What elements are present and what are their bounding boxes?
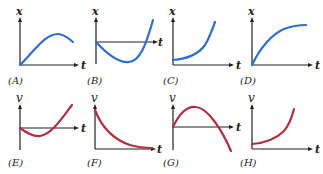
panel-label: (F) xyxy=(87,157,102,168)
curve xyxy=(20,34,73,65)
curve xyxy=(173,107,231,151)
curve xyxy=(95,110,152,148)
panel-g: v t (G) xyxy=(163,91,241,168)
curve xyxy=(252,109,294,144)
x-axis-label: t xyxy=(158,36,163,49)
panel-f: v t (F) xyxy=(87,91,162,168)
y-axis-label: x xyxy=(15,5,23,18)
panel-label: (D) xyxy=(240,75,256,86)
panel-c: x t (C) xyxy=(163,5,241,86)
panel-label: (H) xyxy=(240,157,257,168)
panel-b: x t (B) xyxy=(87,5,163,86)
panel-label: (A) xyxy=(8,75,23,86)
panel-label: (G) xyxy=(163,157,179,168)
panel-e: v t (E) xyxy=(8,91,86,168)
y-axis-label: x xyxy=(91,5,99,18)
y-axis-label: v xyxy=(16,91,23,105)
arrow-right-icon xyxy=(74,63,79,67)
arrow-right-icon xyxy=(229,125,234,129)
x-axis-label: t xyxy=(81,122,86,135)
x-axis-label: t xyxy=(315,143,320,156)
x-axis-label: t xyxy=(157,143,162,156)
curve xyxy=(252,25,306,65)
y-axis-label: v xyxy=(91,91,98,105)
panel-label: (B) xyxy=(87,75,102,86)
arrow-right-icon xyxy=(229,63,234,67)
arrow-right-icon xyxy=(74,126,79,130)
arrow-right-icon xyxy=(308,147,313,151)
x-axis-label: t xyxy=(315,59,320,72)
y-axis-label: x xyxy=(168,5,176,18)
panel-d: x t (D) xyxy=(240,5,320,86)
panel-h: v t (H) xyxy=(240,91,320,168)
arrow-right-icon xyxy=(308,63,313,67)
panel-label: (C) xyxy=(163,75,179,86)
y-axis-label: v xyxy=(248,91,255,105)
motion-graphs-figure: x t (A) x t (B) x t (C) x t (D) xyxy=(0,0,323,174)
curve xyxy=(20,105,72,136)
y-axis-label: v xyxy=(169,91,176,105)
curve xyxy=(173,22,215,60)
curve xyxy=(96,20,153,62)
panel-label: (E) xyxy=(8,157,23,168)
x-axis-label: t xyxy=(236,121,241,134)
y-axis-label: x xyxy=(247,5,255,18)
x-axis-label: t xyxy=(236,59,241,72)
x-axis-label: t xyxy=(81,59,86,72)
panel-a: x t (A) xyxy=(8,5,86,86)
